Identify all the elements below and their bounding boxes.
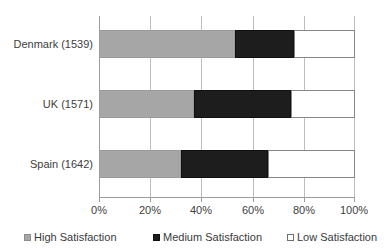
x-tick-mark-60	[253, 198, 254, 202]
bar-segment-uk-high	[99, 90, 194, 118]
bar-row-spain	[99, 150, 355, 178]
bar-row-denmark	[99, 30, 355, 58]
legend-label-medium-satisfaction: Medium Satisfaction	[163, 231, 262, 243]
bar-segment-spain-low	[268, 150, 355, 178]
bar-segment-uk-low	[291, 90, 355, 118]
bars	[99, 16, 355, 198]
x-tick-mark-20	[150, 198, 151, 202]
legend-item-low-satisfaction: Low Satisfaction	[287, 231, 377, 243]
bar-row-uk	[99, 90, 355, 118]
bar-segment-denmark-high	[99, 30, 235, 58]
y-axis-label-spain: Spain (1642)	[0, 158, 93, 170]
x-tick-mark-80	[304, 198, 305, 202]
bar-segment-denmark-medium	[235, 30, 294, 58]
bar-segment-uk-medium	[194, 90, 291, 118]
legend-item-medium-satisfaction: Medium Satisfaction	[153, 231, 262, 243]
x-tick-label-60: 60%	[233, 204, 273, 216]
legend-label-high-satisfaction: High Satisfaction	[34, 231, 117, 243]
stacked-bar-chart: Denmark (1539) UK (1571) Spain (1642)	[0, 0, 384, 248]
low-satisfaction-swatch-icon	[287, 234, 294, 241]
x-tick-mark-0	[99, 198, 100, 202]
bar-segment-spain-high	[99, 150, 181, 178]
medium-satisfaction-swatch-icon	[153, 234, 160, 241]
x-tick-label-20: 20%	[130, 204, 170, 216]
y-axis-label-denmark: Denmark (1539)	[0, 38, 93, 50]
x-tick-label-100: 100%	[334, 204, 374, 216]
legend-label-low-satisfaction: Low Satisfaction	[297, 231, 377, 243]
x-tick-mark-100	[354, 198, 355, 202]
high-satisfaction-swatch-icon	[24, 234, 31, 241]
x-tick-label-40: 40%	[181, 204, 221, 216]
bar-segment-denmark-low	[294, 30, 355, 58]
plot-area	[99, 16, 355, 198]
x-tick-mark-40	[201, 198, 202, 202]
y-axis-label-uk: UK (1571)	[0, 98, 93, 110]
legend: High Satisfaction Medium Satisfaction Lo…	[0, 231, 384, 247]
x-axis-ticks: 0% 20% 40% 60% 80% 100%	[99, 202, 355, 218]
x-tick-label-0: 0%	[79, 204, 119, 216]
x-tick-label-80: 80%	[284, 204, 324, 216]
bar-segment-spain-medium	[181, 150, 268, 178]
legend-item-high-satisfaction: High Satisfaction	[24, 231, 117, 243]
